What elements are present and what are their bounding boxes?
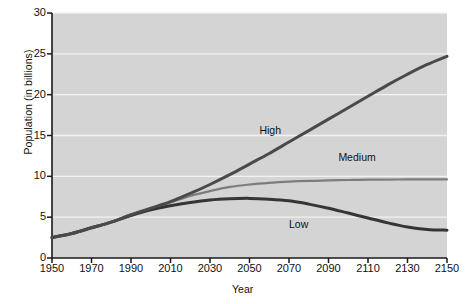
series-label-medium: Medium — [338, 151, 375, 163]
series-label-low: Low — [289, 218, 308, 230]
population-projection-chart: Population (in billions) Year 0510152025… — [0, 0, 468, 304]
series-annotations: HighMediumLow — [0, 0, 468, 304]
series-label-high: High — [259, 124, 281, 136]
